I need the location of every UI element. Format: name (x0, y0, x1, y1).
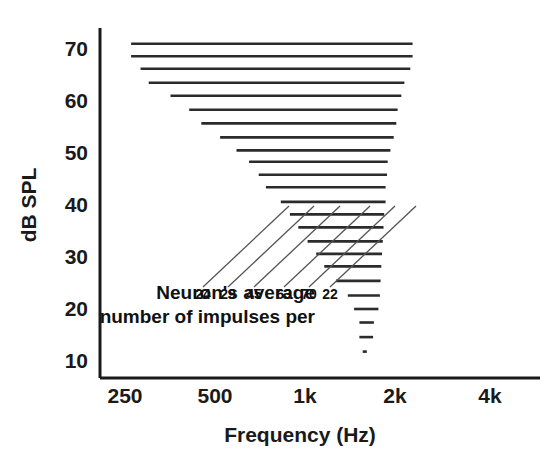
y-tick-40: 40 (65, 193, 88, 216)
impulse-count-label: 22 (322, 286, 338, 302)
tuning-curve-chart: 70 60 50 40 30 20 10 dB SPL 250 500 1k 2… (0, 0, 553, 460)
annotation-note-line2: number of impulses per (100, 306, 316, 327)
y-tick-70: 70 (65, 37, 88, 60)
x-tick-250: 250 (107, 384, 142, 407)
y-tick-30: 30 (65, 245, 88, 268)
x-tick-2k: 2k (383, 384, 407, 407)
y-tick-20: 20 (65, 297, 88, 320)
y-tick-10: 10 (65, 349, 88, 372)
chart-figure: 70 60 50 40 30 20 10 dB SPL 250 500 1k 2… (0, 0, 553, 460)
y-tick-50: 50 (65, 141, 88, 164)
y-tick-60: 60 (65, 89, 88, 112)
x-tick-500: 500 (197, 384, 232, 407)
x-tick-4k: 4k (478, 384, 502, 407)
y-axis-title: dB SPL (17, 167, 40, 242)
x-tick-1k: 1k (293, 384, 317, 407)
annotation-note-line1: Neuron's average (156, 282, 315, 303)
x-axis-title: Frequency (Hz) (224, 423, 376, 446)
